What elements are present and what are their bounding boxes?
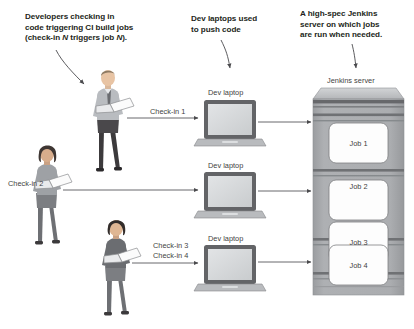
job-label-1: Job 1 (329, 139, 388, 148)
checkin-label-3: Check-in 3 (153, 241, 188, 251)
laptop-2[interactable] (194, 172, 266, 218)
laptop-label-3: Dev laptop (208, 234, 243, 244)
checkin-label-4: Check-in 4 (153, 251, 188, 261)
pointer-developers-to-person (56, 50, 84, 84)
checkin-label-1: Check-in 1 (150, 107, 185, 117)
laptop-1[interactable] (194, 100, 266, 146)
server-top-face (313, 88, 404, 99)
flow-row-2 (33, 146, 311, 245)
laptop-label-2: Dev laptop (208, 161, 243, 171)
laptop-label-1: Dev laptop (208, 88, 243, 98)
server-caption: Jenkins server (327, 76, 375, 86)
pointer-note-to-server (352, 44, 356, 68)
flow-row-3 (102, 220, 311, 316)
job-label-3: Job 3 (329, 238, 388, 247)
laptop-3[interactable] (194, 245, 266, 291)
pointer-laptops-to-laptop (221, 40, 230, 68)
diagram-graphics (0, 0, 414, 329)
checkin-label-2: Check-in 2 (8, 179, 43, 189)
person-developer-3 (102, 220, 141, 316)
job-label-2: Job 2 (329, 182, 388, 191)
job-label-4: Job 4 (329, 261, 388, 270)
person-developer-2 (33, 146, 72, 245)
flow-row-1 (93, 70, 311, 172)
diagram-canvas: Developers checking in code triggering C… (0, 0, 414, 329)
person-developer-1 (93, 70, 134, 172)
